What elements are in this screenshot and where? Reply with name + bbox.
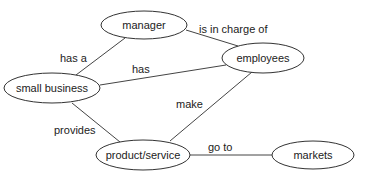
concept-map: has a is in charge of has make provides … (0, 0, 369, 180)
node-label-markets: markets (293, 149, 333, 161)
node-small-business: small business (4, 73, 100, 103)
edge-label-has-a: has a (60, 52, 88, 64)
node-label-employees: employees (236, 52, 290, 64)
edge-label-has: has (132, 63, 150, 75)
node-product-service: product/service (96, 140, 190, 170)
edge-has (100, 65, 226, 85)
edge-label-make: make (176, 98, 203, 110)
edge-provides (72, 103, 120, 142)
node-label-product-service: product/service (106, 149, 181, 161)
node-markets: markets (272, 141, 354, 169)
edge-label-go-to: go to (208, 141, 232, 153)
edge-label-provides: provides (54, 124, 96, 136)
node-label-manager: manager (122, 19, 166, 31)
node-employees: employees (222, 43, 304, 73)
edge-label-is-in-charge-of: is in charge of (199, 23, 268, 35)
node-label-small-business: small business (16, 82, 89, 94)
node-manager: manager (101, 11, 187, 39)
